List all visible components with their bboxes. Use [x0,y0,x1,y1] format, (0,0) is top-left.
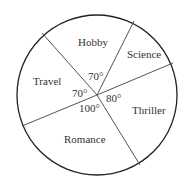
pie-chart-svg: Hobby Science Thriller Romance Travel 70… [0,0,192,183]
angle-label-thriller: 80° [106,92,121,104]
slice-label-thriller: Thriller [132,104,166,116]
slice-label-romance: Romance [64,133,106,145]
angle-label-hobby: 70° [88,70,103,82]
slice-label-hobby: Hobby [78,36,108,48]
slice-label-travel: Travel [33,75,61,87]
pie-chart: Hobby Science Thriller Romance Travel 70… [0,0,192,183]
angle-label-romance: 100° [79,102,100,114]
slice-label-science: Science [127,48,161,60]
angle-label-travel: 70° [72,87,87,99]
